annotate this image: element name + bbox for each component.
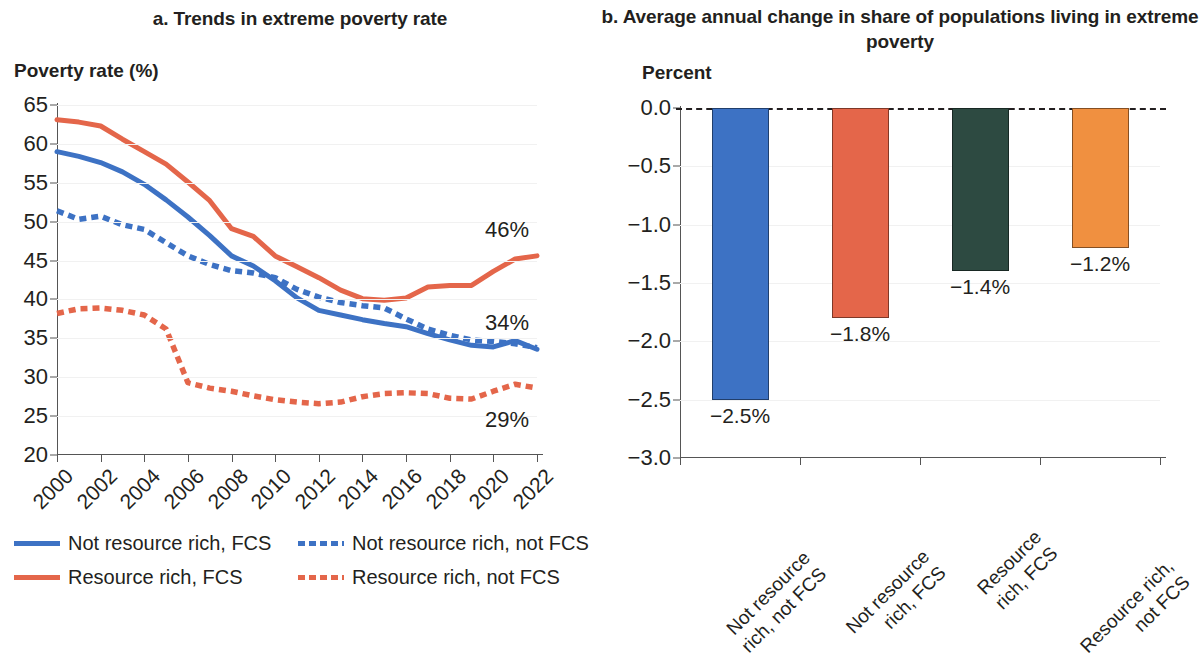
panel-a-x-tick-label: 2018: [421, 464, 471, 514]
panel-b-category-label: Resource rich,not FCS: [1075, 555, 1194, 657]
legend-label: Resource rich, not FCS: [352, 566, 560, 589]
panel-a-y-tick-label: 65: [24, 92, 48, 118]
panel-a-x-tick-mark: [493, 455, 494, 462]
legend-item-not-resource-rich-fcs: Not resource rich, FCS: [14, 532, 298, 555]
panel-a-x-tick-label: 2022: [508, 464, 558, 514]
legend-label: Not resource rich, FCS: [68, 532, 271, 555]
panel-a-y-tick-mark: [50, 377, 57, 378]
panel-a-y-tick-label: 40: [24, 286, 48, 312]
panel-a-y-tick-mark: [50, 338, 57, 339]
panel-a-x-tick-label: 2006: [159, 464, 209, 514]
panel-b-x-tick-mark: [920, 458, 921, 465]
panel-a-x-tick-mark: [188, 455, 189, 462]
panel-b-gridline: [680, 400, 1160, 401]
panel-a-y-tick-mark: [50, 105, 57, 106]
bar-value-label: −1.4%: [950, 275, 1010, 299]
panel-a-gridline: [57, 105, 537, 106]
bar-value-label: −2.5%: [710, 404, 770, 428]
panel-b-y-axis-caption: Percent: [642, 62, 712, 84]
panel-a-x-tick-label: 2014: [333, 464, 383, 514]
panel-a-x-tick-mark: [319, 455, 320, 462]
panel-b-y-tick-label: −0.5: [628, 153, 671, 179]
panel-b-y-tick-mark: [673, 224, 680, 225]
panel-a-end-label-red-dashed: 29%: [485, 407, 529, 433]
panel-a-series-line: [57, 308, 537, 404]
panel-a-title: a. Trends in extreme poverty rate: [0, 6, 600, 31]
panel-b-y-tick-mark: [673, 283, 680, 284]
panel-a-x-tick-label: 2010: [246, 464, 296, 514]
panel-b-y-tick-mark: [673, 458, 680, 459]
panel-b-y-tick-label: −3.0: [628, 445, 671, 471]
panel-a-gridline: [57, 183, 537, 184]
panel-a-series-svg: [57, 105, 537, 455]
panel-a-x-tick-mark: [450, 455, 451, 462]
panel-b-y-tick-label: −2.0: [628, 328, 671, 354]
panel-a-x-tick-label: 2002: [72, 464, 122, 514]
panel-b-y-tick-mark: [673, 166, 680, 167]
panel-a-y-tick-mark: [50, 416, 57, 417]
panel-b-title: b. Average annual change in share of pop…: [600, 4, 1200, 54]
panel-a-y-tick-label: 20: [24, 442, 48, 468]
panel-b-y-tick-label: −1.5: [628, 270, 671, 296]
panel-a-gridline: [57, 377, 537, 378]
panel-a-x-tick-label: 2008: [202, 464, 252, 514]
panel-a-y-tick-label: 60: [24, 131, 48, 157]
legend-item-not-resource-rich-not-fcs: Not resource rich, not FCS: [298, 532, 594, 555]
panel-a-x-tick-mark: [101, 455, 102, 462]
panel-a-gridline: [57, 299, 537, 300]
panel-a-y-tick-label: 30: [24, 364, 48, 390]
panel-b-plot-area: 0.0−0.5−1.0−1.5−2.0−2.5−3.0−2.5%Not reso…: [680, 108, 1160, 458]
legend-label: Not resource rich, not FCS: [352, 532, 589, 555]
panel-b-x-tick-mark: [800, 458, 801, 465]
bar[interactable]: [712, 108, 769, 400]
panel-a-y-tick-mark: [50, 143, 57, 144]
panel-b-x-tick-mark: [1160, 458, 1161, 465]
panel-a-y-tick-label: 45: [24, 248, 48, 274]
panel-a-y-axis-caption: Poverty rate (%): [14, 60, 159, 82]
panel-a-gridline: [57, 261, 537, 262]
panel-a-x-tick-mark: [57, 455, 58, 462]
panel-a-y-tick-mark: [50, 299, 57, 300]
panel-b-x-tick-mark: [680, 458, 681, 465]
panel-a-gridline: [57, 338, 537, 339]
legend-label: Resource rich, FCS: [68, 566, 243, 589]
panel-a-gridline: [57, 416, 537, 417]
panel-a-y-tick-mark: [50, 182, 57, 183]
panel-a-series-line: [57, 120, 537, 300]
panel-a-series-line: [57, 152, 537, 350]
panel-a-end-label-red-solid: 46%: [485, 217, 529, 243]
legend-item-resource-rich-not-fcs: Resource rich, not FCS: [298, 566, 594, 589]
panel-a-series-line: [57, 211, 537, 348]
panel-b-y-tick-label: −1.0: [628, 212, 671, 238]
bar[interactable]: [832, 108, 889, 318]
panel-a-x-tick-mark: [275, 455, 276, 462]
panel-a-x-tick-mark: [406, 455, 407, 462]
panel-b-x-axis-line: [680, 457, 1166, 458]
panel-a-x-tick-label: 2000: [28, 464, 78, 514]
panel-a-y-tick-label: 25: [24, 403, 48, 429]
panel-b-category-label: Not resourcerich, FCS: [841, 545, 950, 654]
panel-a-legend: Not resource rich, FCS Not resource rich…: [14, 526, 594, 594]
panel-a-y-tick-mark: [50, 455, 57, 456]
panel-b-category-label: Not resourcerich, not FCS: [720, 546, 831, 657]
panel-a-y-tick-label: 55: [24, 170, 48, 196]
bar-value-label: −1.2%: [1070, 252, 1130, 276]
panel-a-x-tick-mark: [144, 455, 145, 462]
panel-a-x-tick-mark: [232, 455, 233, 462]
legend-item-resource-rich-fcs: Resource rich, FCS: [14, 566, 298, 589]
panel-a-x-tick-label: 2012: [290, 464, 340, 514]
bar-value-label: −1.8%: [830, 322, 890, 346]
panel-a-x-tick-label: 2016: [377, 464, 427, 514]
bar[interactable]: [952, 108, 1009, 271]
panel-a-gridline: [57, 222, 537, 223]
panel-a-y-tick-mark: [50, 260, 57, 261]
panel-b-y-tick-mark: [673, 399, 680, 400]
panel-a-end-label-blue-solid: 34%: [485, 310, 529, 336]
panel-a-plot-area: 2025303540455055606520002002200420062008…: [57, 105, 537, 455]
panel-a-x-tick-label: 2004: [115, 464, 165, 514]
bar[interactable]: [1072, 108, 1129, 248]
panel-b-x-tick-mark: [1040, 458, 1041, 465]
panel-a-line-chart: a. Trends in extreme poverty rate Povert…: [0, 0, 600, 599]
panel-a-x-tick-mark: [362, 455, 363, 462]
